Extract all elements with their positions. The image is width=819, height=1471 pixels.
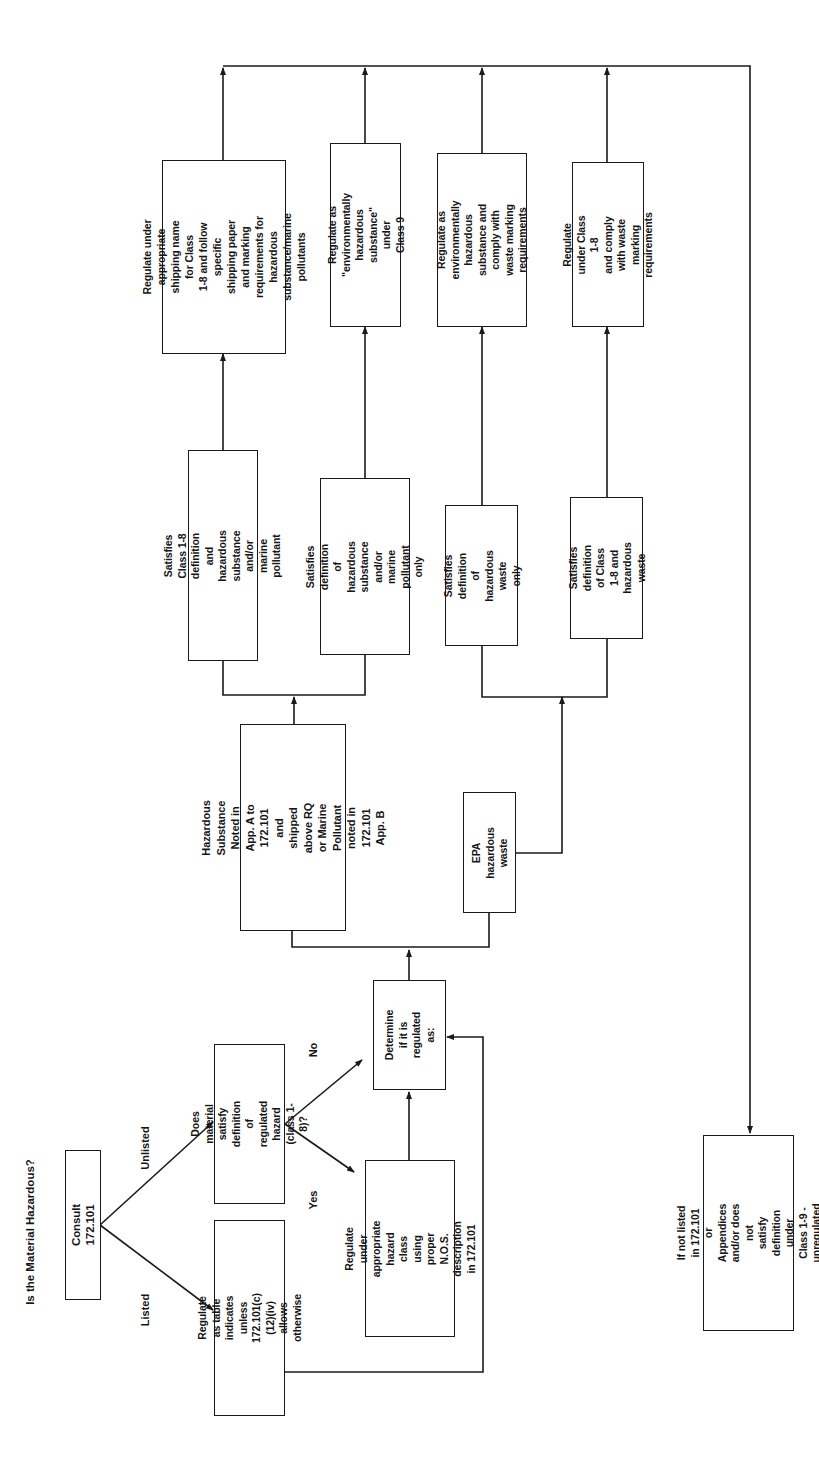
node-determine: Determine if it is regulated as: — [373, 980, 446, 1090]
node-regulate-class-and-hs: Regulate under appropriate shipping name… — [162, 160, 286, 354]
node-listed-regulate-as-table: Regulate as table indicates unless 172.1… — [214, 1220, 285, 1416]
node-unlisted-question: Does material satisfy definition of regu… — [214, 1044, 285, 1204]
edge-label-yes: Yes — [307, 1191, 319, 1210]
node-satisfies-hw-only: Satisfies definition of hazardous waste … — [445, 505, 518, 646]
edge-label-no: No — [307, 1043, 319, 1058]
node-unregulated: If not listed in 172.101 or Appendices a… — [703, 1135, 794, 1331]
edge-label-listed: Listed — [139, 1294, 151, 1326]
node-regulate-class-waste: Regulate under Class 1-8 and comply with… — [572, 162, 644, 327]
edge-label-unlisted: Unlisted — [139, 1126, 151, 1169]
node-regulate-class9: Regulate as "environmentally hazardous s… — [330, 143, 401, 327]
diagram-title: Is the Material Hazardous? — [24, 1159, 36, 1305]
node-consult-172-101: Consult 172.101 — [65, 1150, 101, 1300]
node-satisfies-class-and-hs: Satisfies Class 1-8 definition and hazar… — [188, 450, 258, 661]
node-regulate-nos: Regulate under appropriate hazard class … — [365, 1160, 455, 1337]
node-hazardous-substance: Hazardous Substance Noted in App. A to 1… — [240, 724, 346, 931]
node-satisfies-hs-only: Satisfies definition of hazardous substa… — [320, 478, 410, 655]
node-regulate-env-waste: Regulate as environmentally hazardous su… — [437, 153, 527, 327]
node-epa-hazardous-waste: EPA hazardous waste — [463, 792, 516, 913]
node-satisfies-class-and-hw: Satisfies definition of Class 1-8 and ha… — [570, 497, 643, 639]
